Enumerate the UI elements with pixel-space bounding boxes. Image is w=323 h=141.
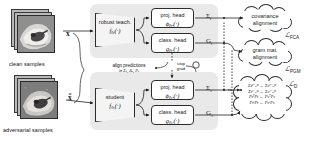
clean-samples-image-stack (11, 9, 61, 59)
align-predictions-math: in Σₛ, Δₛ, Pₛ (119, 68, 139, 73)
clean-samples-caption: clean samples (9, 61, 45, 67)
clean-input-symbol: x (66, 29, 70, 38)
student-proj-head-label: proj. head (152, 81, 193, 92)
gram-alignment-line1: gram mat. (252, 47, 277, 53)
loss-fca-label: ℒFCA (285, 31, 299, 40)
adversarial-sample-thumbnail (20, 81, 58, 119)
loss-d-label: ℒD (289, 80, 297, 89)
student-gram-label: Gs (206, 109, 213, 118)
robust-teacher-encoder: robust teach. fθt(·) (95, 13, 135, 47)
teacher-class-head-label: class. head (152, 34, 193, 45)
teacher-encoder-label: robust teach. (99, 19, 131, 25)
teacher-gram-label: Gt (206, 37, 212, 46)
covariance-alignment-line2: alignment (253, 20, 277, 26)
student-proj-head-box: proj. head ϕθsᵖ(·) (151, 80, 194, 100)
align-predictions-note: align predictions in Σₛ, Δₛ, Pₛ (100, 63, 158, 74)
distill-eq-3: PtᵀPt ← PsᵀPs (249, 94, 275, 99)
align-predictions-text: align predictions (112, 63, 145, 68)
student-encoder-arg: (·) (115, 102, 121, 109)
adversarial-samples-image-stack (14, 75, 64, 125)
gram-alignment-cloud: gram mat. alignment (239, 43, 291, 65)
student-class-head-arg: (·) (173, 117, 179, 124)
teacher-encoder-arg: (·) (114, 27, 120, 34)
distill-eq-2: Σtᶜ⁻ₒᵘᵗ ← Σsᶜ⁻ₒᵘᵗ (248, 89, 276, 94)
adversarial-samples-caption: adversarial samples (3, 127, 53, 133)
distillation-equations: Σtᵖ⁻ₒᵘᵗ ← Σsᵖ⁻ₒᵘᵗ Σtᶜ⁻ₒᵘᵗ ← Σsᶜ⁻ₒᵘᵗ PtᵀP… (232, 83, 292, 105)
teacher-proj-head-arg: (·) (173, 20, 179, 27)
student-sigma-label: Σs (206, 84, 212, 93)
student-class-head-label: class. head (152, 106, 193, 117)
student-class-head-box: class. head gθsᶜ(·) (151, 105, 194, 125)
student-encoder-label: student (106, 94, 124, 100)
teacher-class-head-box: class. head gθtᶜ(·) (151, 33, 194, 53)
adversarial-input-symbol: x̃ (68, 93, 72, 102)
teacher-sigma-label: Σt (206, 12, 211, 21)
covariance-alignment-line1: covariance (251, 13, 278, 19)
student-proj-head-arg: (·) (174, 92, 180, 99)
distill-eq-1: Σtᵖ⁻ₒᵘᵗ ← Σsᵖ⁻ₒᵘᵗ (248, 83, 276, 88)
loss-pgm-label: ℒPGM (285, 65, 300, 74)
clean-sample-thumbnail (17, 15, 55, 53)
figure-canvas: clean samples x adversarial samples x̃ (0, 0, 323, 141)
teacher-proj-head-label: proj. head (152, 9, 193, 20)
stop-grad-line2: grad (177, 66, 185, 71)
teacher-proj-head-box: proj. head ϕθtᵖ(·) (151, 8, 194, 28)
distill-eq-4: PtᶜPt ← PsᶜPs (250, 100, 275, 105)
gram-alignment-line2: alignment (253, 54, 277, 60)
stop-gradient-note: stop grad (170, 62, 192, 71)
student-encoder: student fθs(·) (95, 88, 135, 122)
teacher-class-head-arg: (·) (173, 45, 179, 52)
